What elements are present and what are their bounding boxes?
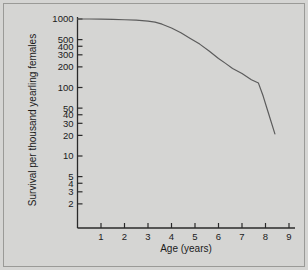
y-tick-label-2: 2 bbox=[68, 198, 73, 209]
x-tick-label-7: 7 bbox=[239, 231, 244, 242]
x-axis-title: Age (years) bbox=[160, 243, 212, 254]
x-tick-label-5: 5 bbox=[192, 231, 197, 242]
y-tick-label-50: 50 bbox=[63, 103, 74, 114]
x-tick-label-8: 8 bbox=[263, 231, 268, 242]
axes-group bbox=[78, 17, 296, 228]
x-tick-label-3: 3 bbox=[145, 231, 150, 242]
data-series-1 bbox=[78, 19, 275, 134]
x-tick-label-4: 4 bbox=[169, 231, 174, 242]
y-tick-label-100: 100 bbox=[58, 82, 74, 93]
y-tick-label-200: 200 bbox=[58, 61, 74, 72]
y-tick-label-10: 10 bbox=[63, 150, 74, 161]
x-tick-label-2: 2 bbox=[122, 231, 127, 242]
survivorship-plot: 2345102030405010020030040050010001234567… bbox=[0, 0, 308, 270]
chart-figure: 2345102030405010020030040050010001234567… bbox=[0, 0, 308, 270]
y-tick-label-500: 500 bbox=[58, 34, 74, 45]
y-tick-label-5: 5 bbox=[68, 171, 73, 182]
tick-labels-group: 2345102030405010020030040050010001234567… bbox=[52, 13, 291, 242]
x-tick-label-9: 9 bbox=[286, 231, 291, 242]
x-tick-label-1: 1 bbox=[98, 231, 103, 242]
tick-marks-group bbox=[78, 19, 290, 228]
y-tick-label-20: 20 bbox=[63, 130, 74, 141]
y-axis-title: Survival per thousand yearling females bbox=[27, 34, 38, 206]
x-tick-label-6: 6 bbox=[216, 231, 221, 242]
y-tick-label-1000: 1000 bbox=[52, 13, 73, 24]
data-curve-group bbox=[78, 19, 275, 134]
